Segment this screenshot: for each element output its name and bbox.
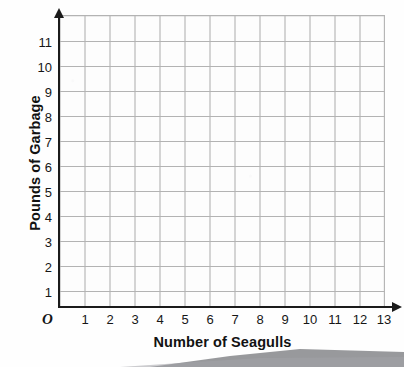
y-tick-label: 9 bbox=[45, 85, 52, 98]
x-tick-6: 6 bbox=[206, 313, 213, 326]
y-axis-title: Pounds of Garbage bbox=[27, 43, 43, 283]
worksheet-page: O 11 10 9 8 7 6 5 4 3 2 bbox=[0, 0, 404, 367]
y-tick-label: 5 bbox=[45, 185, 52, 198]
y-tick-label: 6 bbox=[45, 160, 52, 173]
y-axis-arrow-icon bbox=[54, 8, 64, 18]
x-tick-8: 8 bbox=[256, 313, 263, 326]
coordinate-grid-chart: O 11 10 9 8 7 6 5 4 3 2 bbox=[0, 0, 404, 367]
x-tick-7: 7 bbox=[231, 313, 238, 326]
y-tick-label: 8 bbox=[45, 110, 52, 123]
gridlines bbox=[60, 15, 385, 307]
y-tick-label: 4 bbox=[45, 210, 52, 223]
origin-label: O bbox=[42, 311, 53, 328]
x-tick-11: 11 bbox=[328, 313, 342, 326]
y-axis-line bbox=[58, 15, 60, 308]
y-tick-label: 1 bbox=[45, 285, 52, 298]
y-tick-label: 3 bbox=[45, 235, 52, 248]
x-tick-13: 13 bbox=[377, 313, 391, 326]
x-tick-12: 12 bbox=[353, 313, 367, 326]
y-tick-label: 2 bbox=[45, 260, 52, 273]
x-axis-line bbox=[58, 306, 396, 308]
x-tick-3: 3 bbox=[131, 313, 138, 326]
x-axis-title: Number of Seagulls bbox=[60, 334, 385, 350]
x-tick-9: 9 bbox=[281, 313, 288, 326]
x-tick-1: 1 bbox=[81, 313, 88, 326]
x-tick-5: 5 bbox=[181, 313, 188, 326]
x-tick-2: 2 bbox=[106, 313, 113, 326]
x-axis-arrow-icon bbox=[392, 302, 402, 312]
x-tick-4: 4 bbox=[156, 313, 163, 326]
y-tick-label: 7 bbox=[45, 135, 52, 148]
plot-area bbox=[60, 15, 385, 307]
x-tick-10: 10 bbox=[303, 313, 317, 326]
